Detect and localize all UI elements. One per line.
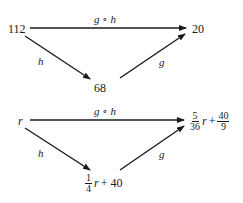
node-middle-top: 68 xyxy=(94,82,106,94)
arrow-g-bottom xyxy=(120,126,184,170)
label-g-bottom: g xyxy=(159,148,165,160)
label-h-top: h xyxy=(38,55,44,67)
label-h-bottom: h xyxy=(38,147,44,159)
node-source-top: 112 xyxy=(8,23,26,35)
arrow-g-top xyxy=(120,34,185,78)
label-composition-bottom: g ∘ h xyxy=(94,105,116,117)
fraction-1-4: 1 4 xyxy=(85,173,92,194)
fraction-40-9: 40 9 xyxy=(217,111,229,132)
label-g-top: g xyxy=(159,56,165,68)
label-composition-top: g ∘ h xyxy=(94,13,116,25)
fraction-5-36: 5 36 xyxy=(190,111,200,132)
node-middle-bottom: 1 4 r + 40 xyxy=(85,173,122,194)
node-target-top: 20 xyxy=(192,23,204,35)
node-target-bottom: 5 36 r + 40 9 xyxy=(190,111,229,132)
node-source-bottom: r xyxy=(18,115,23,127)
arrow-h-bottom xyxy=(25,128,90,170)
arrow-h-top xyxy=(25,36,90,79)
